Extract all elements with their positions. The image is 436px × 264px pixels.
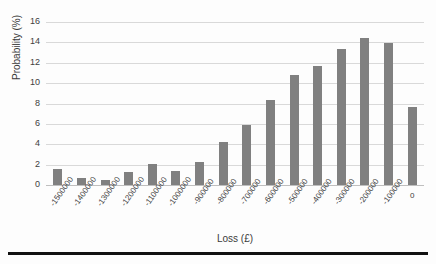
bar-slot <box>188 22 212 185</box>
x-axis-tick-label: 0 <box>410 191 414 200</box>
y-axis-tick-label: 14 <box>6 37 40 46</box>
bar <box>360 38 369 185</box>
bottom-divider <box>8 252 428 255</box>
bar-slot <box>282 22 306 185</box>
x-axis-title: Loss (£) <box>46 233 424 245</box>
bar-slot <box>117 22 141 185</box>
bar-series <box>46 22 424 185</box>
bar <box>337 49 346 186</box>
y-axis-tick-label: 8 <box>6 99 40 108</box>
bar-slot <box>164 22 188 185</box>
chart-figure: Probability (%) 0246810121416 -1500000-1… <box>0 0 436 264</box>
bar-slot <box>93 22 117 185</box>
plot-area <box>46 22 424 185</box>
bar-slot <box>141 22 165 185</box>
bar-slot <box>259 22 283 185</box>
bar <box>266 100 275 185</box>
bar-slot <box>211 22 235 185</box>
bar-slot <box>70 22 94 185</box>
bar-slot <box>353 22 377 185</box>
y-axis-tick-label: 10 <box>6 78 40 87</box>
bar <box>195 162 204 185</box>
bar <box>384 43 393 185</box>
bar-slot <box>330 22 354 185</box>
bar-slot <box>377 22 401 185</box>
y-axis-tick-label: 6 <box>6 119 40 128</box>
bar-slot <box>400 22 424 185</box>
y-axis-tick-label: 16 <box>6 17 40 26</box>
bar <box>219 142 228 185</box>
y-axis-tick-label: 0 <box>6 180 40 189</box>
y-axis-tick-label: 2 <box>6 160 40 169</box>
bar <box>408 107 417 185</box>
bar <box>313 66 322 185</box>
bar-slot <box>46 22 70 185</box>
bar <box>290 75 299 185</box>
bar <box>242 125 251 185</box>
bar-slot <box>235 22 259 185</box>
bar-slot <box>306 22 330 185</box>
y-axis-tick-label: 4 <box>6 139 40 148</box>
y-axis-tick-label: 12 <box>6 58 40 67</box>
